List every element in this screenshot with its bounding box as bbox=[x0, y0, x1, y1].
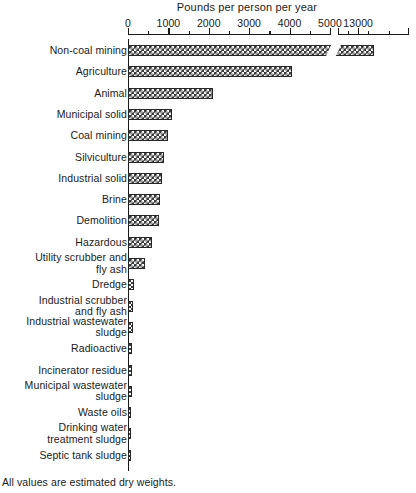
category-label: Drinking water treatment sludge bbox=[47, 422, 127, 445]
category-label: Waste oils bbox=[78, 407, 127, 419]
axis-tick-4000 bbox=[290, 28, 291, 35]
bar bbox=[128, 279, 134, 290]
category-label: Incinerator residue bbox=[38, 365, 127, 377]
axis-tick-0 bbox=[128, 28, 129, 35]
category-label: Coal mining bbox=[70, 130, 127, 142]
bar bbox=[128, 322, 133, 333]
category-label: Silviculture bbox=[75, 152, 127, 164]
category-label: Municipal solid bbox=[57, 109, 127, 121]
axis-tick-2000 bbox=[209, 28, 210, 35]
axis-minor-tick bbox=[368, 31, 369, 35]
plot-area: Non-coal miningAgricultureAnimalMunicipa… bbox=[0, 39, 416, 471]
bar bbox=[128, 237, 152, 248]
axis-minor-tick bbox=[148, 31, 149, 35]
category-label: Municipal wastewater sludge bbox=[25, 380, 127, 403]
bar bbox=[128, 428, 131, 439]
axis-tick-label-4000: 4000 bbox=[278, 17, 302, 29]
bar bbox=[128, 301, 133, 312]
axis-tick-label-0: 0 bbox=[125, 17, 131, 29]
axis-tick-label-1000: 1000 bbox=[157, 17, 181, 29]
axis-minor-tick bbox=[189, 31, 190, 35]
axis-minor-tick bbox=[389, 31, 390, 35]
bar bbox=[128, 343, 132, 354]
category-label: Utility scrubber and fly ash bbox=[35, 252, 127, 275]
bar bbox=[128, 407, 131, 418]
axis-minor-tick bbox=[229, 31, 230, 35]
bar bbox=[128, 258, 145, 269]
bar-segment-left bbox=[128, 45, 331, 56]
category-label: Animal bbox=[94, 88, 127, 100]
waste-generation-bar-chart: Pounds per person per year 0100020003000… bbox=[0, 0, 416, 493]
category-label: Hazardous bbox=[75, 237, 127, 249]
category-label: Industrial wastewater sludge bbox=[26, 316, 127, 339]
bar bbox=[128, 88, 213, 99]
category-label: Radioactive bbox=[71, 343, 127, 355]
bar-segment-right bbox=[336, 45, 374, 56]
category-label: Septic tank sludge bbox=[39, 450, 127, 462]
axis-tick-13000 bbox=[358, 28, 359, 35]
axis-tick-end bbox=[338, 28, 339, 35]
axis-minor-tick bbox=[269, 31, 270, 35]
category-label: Brine bbox=[102, 194, 127, 206]
bar bbox=[128, 152, 164, 163]
axis-tick-label-5000: 5000 bbox=[318, 17, 342, 29]
bar bbox=[128, 194, 160, 205]
axis-minor-tick bbox=[310, 31, 311, 35]
chart-footnote: All values are estimated dry weights. bbox=[2, 476, 176, 488]
category-label: Agriculture bbox=[76, 66, 127, 78]
x-axis: 01000200030004000500013000 bbox=[0, 17, 416, 39]
category-label: Demolition bbox=[76, 215, 127, 227]
bar bbox=[128, 215, 159, 226]
bar bbox=[128, 109, 172, 120]
category-label: Dredge bbox=[92, 279, 127, 291]
axis-minor-tick bbox=[348, 31, 349, 35]
axis-tick-3000 bbox=[249, 28, 250, 35]
axis-tick-label-3000: 3000 bbox=[237, 17, 261, 29]
bar bbox=[128, 130, 168, 141]
category-label: Industrial solid bbox=[58, 173, 127, 185]
bar bbox=[128, 173, 162, 184]
axis-tick-label-2000: 2000 bbox=[197, 17, 221, 29]
axis-title: Pounds per person per year bbox=[0, 1, 416, 13]
bar bbox=[128, 386, 132, 397]
axis-tick-end bbox=[408, 28, 409, 35]
bar bbox=[128, 66, 292, 77]
axis-tick-5000 bbox=[330, 28, 331, 35]
axis-tick-label-13000: 13000 bbox=[343, 17, 373, 29]
axis-tick-1000 bbox=[168, 28, 169, 35]
bar bbox=[128, 450, 131, 461]
bar bbox=[128, 365, 132, 376]
category-label: Non-coal mining bbox=[50, 45, 127, 57]
